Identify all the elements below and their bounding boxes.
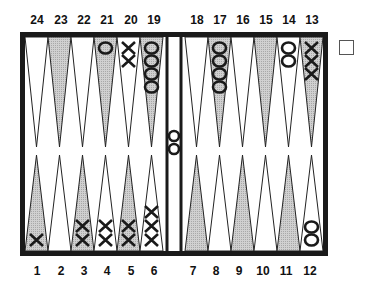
point-16[interactable] [231, 37, 254, 147]
point-22[interactable] [71, 37, 94, 147]
point-label-23: 23 [49, 13, 73, 27]
point-4[interactable] [94, 155, 117, 251]
point-7[interactable] [185, 155, 208, 251]
point-label-15: 15 [254, 13, 278, 27]
point-8[interactable] [208, 155, 231, 251]
point-label-18: 18 [185, 13, 209, 27]
point-label-16: 16 [231, 13, 255, 27]
point-label-9: 9 [227, 264, 251, 278]
point-3[interactable] [71, 155, 94, 251]
point-24[interactable] [25, 37, 48, 147]
bottom-right-quadrant [185, 155, 323, 251]
doubling-cube[interactable] [339, 40, 354, 55]
point-23[interactable] [48, 37, 71, 147]
point-label-19: 19 [142, 13, 166, 27]
point-1[interactable] [25, 155, 48, 251]
top-left-quadrant [25, 37, 163, 147]
point-label-8: 8 [204, 264, 228, 278]
point-label-14: 14 [277, 13, 301, 27]
point-20[interactable] [117, 37, 140, 147]
point-label-10: 10 [251, 264, 275, 278]
point-label-4: 4 [95, 264, 119, 278]
bottom-left-quadrant [25, 155, 163, 251]
point-label-13: 13 [300, 13, 324, 27]
point-label-3: 3 [72, 264, 96, 278]
backgammon-board [20, 32, 328, 256]
point-5[interactable] [117, 155, 140, 251]
point-label-24: 24 [25, 13, 49, 27]
point-18[interactable] [185, 37, 208, 147]
point-10[interactable] [254, 155, 277, 251]
point-label-17: 17 [208, 13, 232, 27]
point-label-20: 20 [119, 13, 143, 27]
point-label-1: 1 [25, 264, 49, 278]
point-label-21: 21 [95, 13, 119, 27]
point-label-7: 7 [181, 264, 205, 278]
point-label-6: 6 [142, 264, 166, 278]
point-9[interactable] [231, 155, 254, 251]
top-right-quadrant [185, 37, 323, 147]
point-label-12: 12 [298, 264, 322, 278]
board-points [25, 37, 323, 251]
point-2[interactable] [48, 155, 71, 251]
point-12[interactable] [300, 155, 323, 251]
point-label-5: 5 [119, 264, 143, 278]
point-label-22: 22 [72, 13, 96, 27]
point-label-2: 2 [49, 264, 73, 278]
point-label-11: 11 [274, 264, 298, 278]
point-11[interactable] [277, 155, 300, 251]
point-15[interactable] [254, 37, 277, 147]
point-6[interactable] [140, 155, 163, 251]
point-13[interactable] [300, 37, 323, 147]
